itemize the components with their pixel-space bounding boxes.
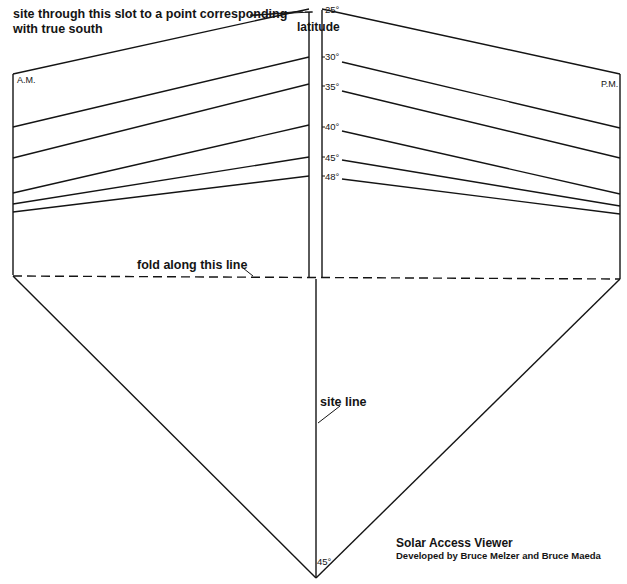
solar-viewer-diagram: [0, 0, 627, 584]
fold-label: fold along this line: [137, 259, 247, 272]
callout-line-1: site through this slot to a point corres…: [13, 7, 287, 22]
lower-right-edge: [316, 279, 620, 578]
credits-subtitle: Developed by Bruce Melzer and Bruce Maed…: [396, 551, 601, 561]
lower-left-edge: [13, 276, 316, 578]
pm-label: P.M.: [601, 80, 618, 89]
latitude-line-40-am: [13, 125, 309, 193]
latitude-line-35-am: [13, 84, 309, 158]
credits-title: Solar Access Viewer: [396, 537, 513, 549]
callout-line-2: with true south: [13, 22, 287, 37]
bottom-angle-label: 45°: [317, 557, 331, 567]
slot-instruction: site through this slot to a point corres…: [13, 7, 287, 37]
latitude-label-40: 40°: [325, 122, 339, 132]
latitude-label-35: 35°: [325, 82, 339, 92]
latitude-line-25-pm: [322, 9, 620, 74]
latitude-line-45-pm: [342, 160, 620, 206]
latitude-line-35-pm: [342, 91, 620, 158]
latitude-line-45-am: [13, 157, 309, 204]
site-line-label: site line: [320, 396, 367, 409]
latitude-label-25: 25°: [325, 5, 339, 15]
latitude-line-48-am: [13, 176, 309, 212]
am-label: A.M.: [17, 76, 36, 85]
latitude-label-48: 48°: [325, 172, 339, 182]
latitude-title: latitude: [297, 21, 340, 33]
latitude-line-30-pm: [342, 62, 620, 128]
latitude-label-30: 30°: [325, 52, 339, 62]
latitude-label-45: 45°: [325, 153, 339, 163]
latitude-line-30-am: [13, 57, 309, 127]
fold-line: [13, 276, 620, 279]
